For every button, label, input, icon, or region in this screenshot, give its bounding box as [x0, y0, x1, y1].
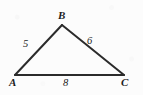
side-BC-line: [62, 25, 124, 75]
vertex-label-a: A: [9, 77, 16, 88]
side-length-label-bc: 6: [87, 36, 92, 47]
vertex-label-b: B: [58, 10, 65, 21]
geometry-figure: A B C 5 6 8: [0, 0, 143, 95]
side-length-label-ab: 5: [23, 39, 28, 50]
side-AB-line: [15, 25, 62, 75]
triangle-outline: [15, 25, 124, 75]
vertex-label-c: C: [121, 77, 128, 88]
side-length-label-ac: 8: [63, 78, 68, 89]
